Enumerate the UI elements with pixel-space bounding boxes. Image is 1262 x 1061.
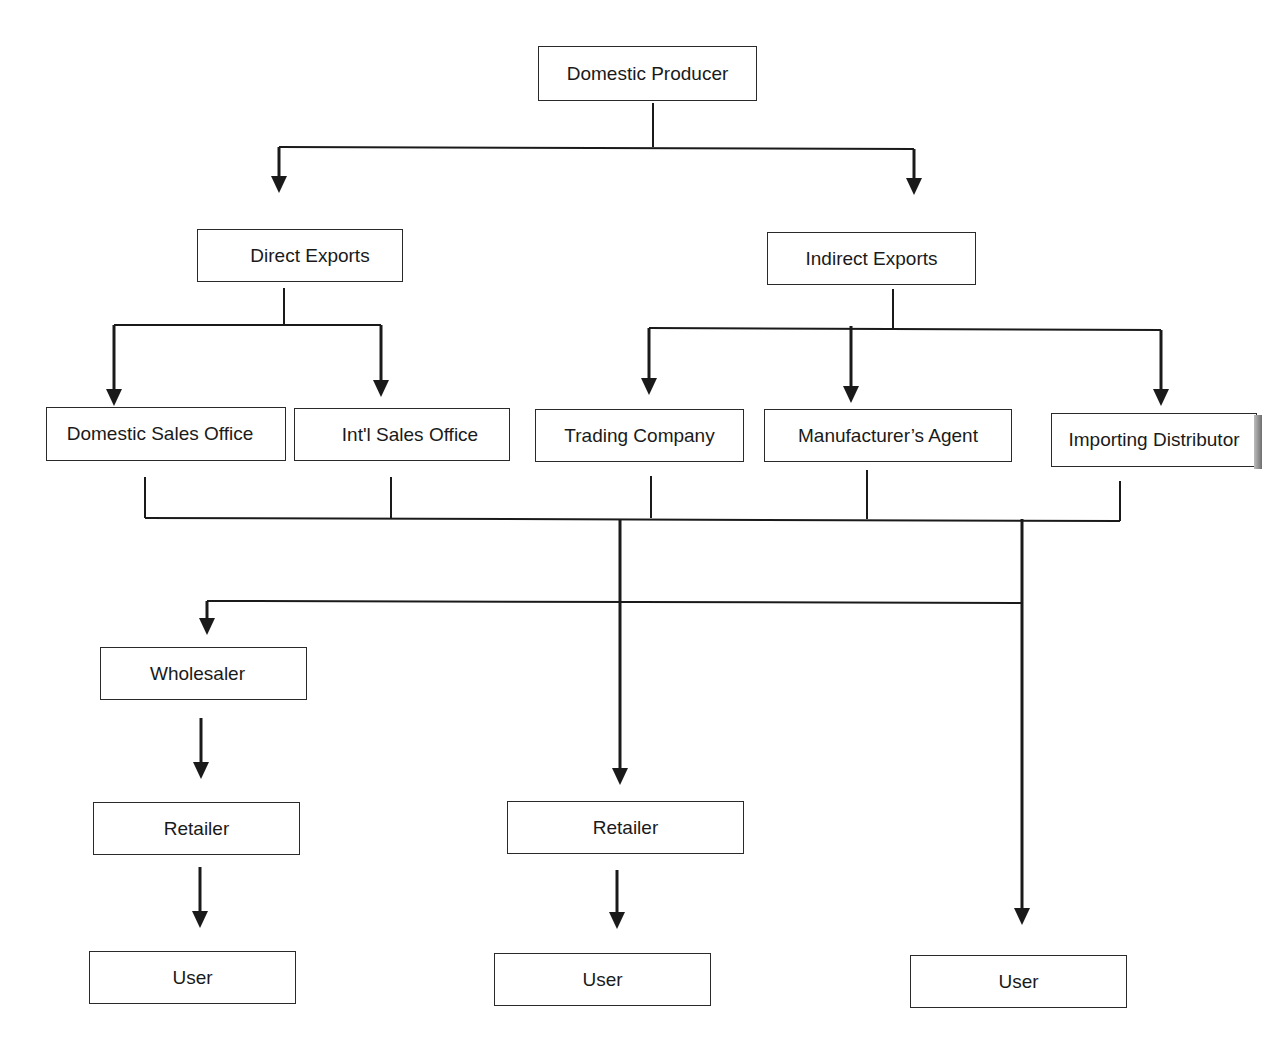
node-label: Importing Distributor bbox=[1068, 429, 1239, 451]
arrowhead-icon bbox=[106, 389, 122, 406]
node-label: User bbox=[582, 969, 622, 991]
node-label: Wholesaler bbox=[150, 663, 245, 685]
arrowhead-icon bbox=[373, 380, 389, 397]
node-label: Manufacturer’s Agent bbox=[798, 425, 978, 447]
arrowhead-icon bbox=[641, 378, 657, 395]
connector-line bbox=[279, 147, 914, 149]
node-trading-company: Trading Company bbox=[535, 409, 744, 462]
node-direct-exports: Direct Exports bbox=[197, 229, 403, 282]
node-user-right: User bbox=[910, 955, 1127, 1008]
node-importing-distributor: Importing Distributor bbox=[1051, 413, 1257, 467]
arrowhead-icon bbox=[199, 618, 215, 635]
node-manufacturers-agent: Manufacturer’s Agent bbox=[764, 409, 1012, 462]
flowchart-canvas: Domestic Producer Direct Exports Indirec… bbox=[0, 0, 1262, 1061]
arrowhead-icon bbox=[193, 762, 209, 779]
arrowhead-icon bbox=[1153, 389, 1169, 406]
node-label: Direct Exports bbox=[250, 245, 369, 267]
node-label: Trading Company bbox=[564, 425, 714, 447]
node-label: User bbox=[172, 967, 212, 989]
node-intl-sales-office: Int'l Sales Office bbox=[294, 408, 510, 461]
node-label: Int'l Sales Office bbox=[342, 424, 478, 446]
node-indirect-exports: Indirect Exports bbox=[767, 232, 976, 285]
arrowhead-icon bbox=[612, 768, 628, 785]
node-label: Retailer bbox=[164, 818, 229, 840]
connector-line bbox=[145, 518, 1120, 521]
node-user-middle: User bbox=[494, 953, 711, 1006]
connector-layer bbox=[0, 0, 1262, 1061]
node-domestic-producer: Domestic Producer bbox=[538, 46, 757, 101]
page-edge-shadow bbox=[1254, 415, 1262, 469]
node-label: Retailer bbox=[593, 817, 658, 839]
node-domestic-sales-office: Domestic Sales Office bbox=[46, 407, 286, 461]
arrowhead-icon bbox=[609, 912, 625, 929]
node-label: Domestic Sales Office bbox=[67, 423, 254, 445]
arrowhead-icon bbox=[192, 911, 208, 928]
connector-line bbox=[207, 601, 1022, 603]
arrowhead-icon bbox=[1014, 908, 1030, 925]
node-label: Indirect Exports bbox=[806, 248, 938, 270]
connector-line bbox=[649, 328, 1161, 330]
arrowhead-icon bbox=[906, 178, 922, 195]
node-label: User bbox=[998, 971, 1038, 993]
node-retailer-left: Retailer bbox=[93, 802, 300, 855]
node-user-left: User bbox=[89, 951, 296, 1004]
arrowhead-icon bbox=[271, 176, 287, 193]
node-label: Domestic Producer bbox=[567, 63, 729, 85]
arrowhead-icon bbox=[843, 386, 859, 403]
node-retailer-middle: Retailer bbox=[507, 801, 744, 854]
node-wholesaler: Wholesaler bbox=[100, 647, 307, 700]
